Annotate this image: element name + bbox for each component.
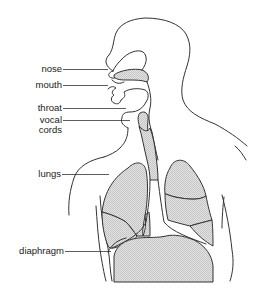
label-mouth: mouth	[36, 80, 62, 90]
right-torso-inner	[222, 197, 224, 228]
throat-front	[104, 128, 128, 157]
right-lung-middle	[165, 194, 212, 226]
nasal-cavity	[114, 69, 148, 82]
label-diaphragm: diaphragm	[19, 246, 64, 256]
label-vocal-cords-line2: cords	[39, 125, 62, 135]
head-outline	[106, 18, 247, 146]
label-vocal-cords: vocal cords	[39, 115, 62, 135]
right-torso-outer	[222, 195, 233, 281]
label-nose: nose	[41, 64, 62, 74]
right-shoulder	[235, 146, 246, 160]
right-lung-upper	[165, 160, 206, 199]
label-lungs: lungs	[38, 169, 61, 179]
diaphragm	[114, 235, 213, 282]
nasal-passage	[113, 51, 146, 71]
label-throat: throat	[38, 103, 62, 113]
palate	[112, 80, 124, 83]
left-shoulder	[69, 157, 104, 215]
